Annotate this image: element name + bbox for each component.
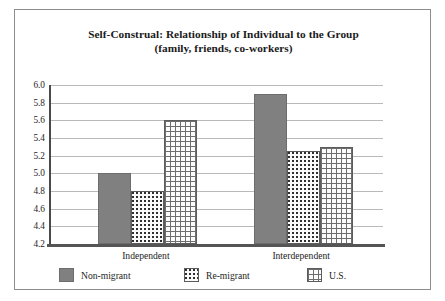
plot-area — [49, 85, 383, 244]
bar-remigrant-1 — [287, 151, 320, 244]
chart-title-line-2: (family, friends, co-workers) — [15, 41, 432, 55]
gridline — [51, 120, 383, 121]
legend-label: Non-migrant — [81, 270, 131, 281]
y-axis-tick-label: 6.0 — [13, 80, 45, 90]
chart-legend: Non-migrantRe-migrantU.S. — [15, 268, 432, 290]
y-axis-tick-label: 4.8 — [13, 186, 45, 196]
bar-remigrant-0 — [131, 191, 164, 244]
y-axis-tick-labels: 6.05.85.65.45.25.04.84.64.44.2 — [15, 85, 45, 244]
bar-nonmigrant-0 — [98, 173, 131, 244]
y-axis-tick-label: 5.0 — [13, 168, 45, 178]
y-axis-tick-label: 5.6 — [13, 115, 45, 125]
x-axis-category-label: Interdependent — [272, 250, 330, 261]
y-axis-tick-label: 4.2 — [13, 239, 45, 249]
legend-label: U.S. — [329, 270, 346, 281]
y-axis-tick-label: 4.4 — [13, 221, 45, 231]
gridline — [51, 103, 383, 104]
legend-swatch-icon — [59, 268, 74, 282]
legend-item-remigrant[interactable]: Re-migrant — [184, 268, 250, 282]
chart-title: Self-Construal: Relationship of Individu… — [15, 27, 432, 55]
chart-title-line-1: Self-Construal: Relationship of Individu… — [15, 27, 432, 41]
legend-swatch-icon — [307, 268, 322, 282]
bar-us-1 — [320, 147, 353, 244]
legend-item-nonmigrant[interactable]: Non-migrant — [59, 268, 131, 282]
legend-swatch-icon — [184, 268, 199, 282]
x-axis-line — [47, 244, 385, 247]
bar-us-0 — [164, 120, 197, 244]
y-axis-tick-label: 5.4 — [13, 133, 45, 143]
y-axis-tick-label: 4.6 — [13, 204, 45, 214]
gridline — [51, 85, 383, 86]
x-axis-category-label: Independent — [122, 250, 169, 261]
y-axis-tick-label: 5.8 — [13, 98, 45, 108]
bar-nonmigrant-1 — [254, 94, 287, 244]
chart-figure: Self-Construal: Relationship of Individu… — [0, 0, 445, 301]
gridline — [51, 138, 383, 139]
chart-frame: Self-Construal: Relationship of Individu… — [14, 9, 431, 290]
y-axis-tick-label: 5.2 — [13, 151, 45, 161]
legend-label: Re-migrant — [206, 270, 250, 281]
legend-item-us[interactable]: U.S. — [307, 268, 346, 282]
